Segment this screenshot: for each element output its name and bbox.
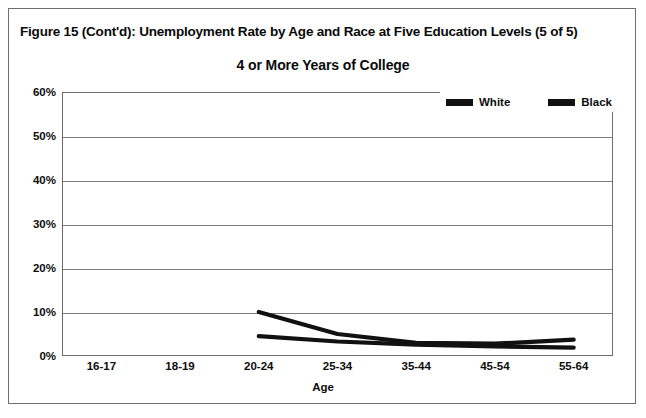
x-axis-tick-label: 16-17 — [61, 360, 141, 372]
x-axis-title: Age — [0, 381, 646, 393]
x-axis-tick-label: 35-44 — [376, 360, 456, 372]
legend-label-black: Black — [581, 96, 612, 108]
x-axis-tick-label: 18-19 — [140, 360, 220, 372]
x-axis-tick-label: 45-54 — [455, 360, 535, 372]
x-axis-tick-label: 55-64 — [534, 360, 614, 372]
legend-entry-white: White — [446, 96, 510, 108]
legend-entry-black: Black — [548, 96, 612, 108]
y-axis-tick-labels: 0%10%20%30%40%50%60% — [8, 92, 56, 356]
x-axis-tick-label: 25-34 — [298, 360, 378, 372]
legend-line-swatch-icon — [548, 99, 575, 106]
figure-container: Figure 15 (Cont'd): Unemployment Rate by… — [0, 0, 646, 418]
chart-legend: White Black — [440, 92, 618, 112]
data-series-layer — [62, 92, 613, 356]
y-axis-tick-label: 30% — [12, 218, 56, 230]
y-axis-tick-label: 50% — [12, 130, 56, 142]
y-axis-tick-label: 10% — [12, 306, 56, 318]
y-axis-tick-label: 20% — [12, 262, 56, 274]
legend-label-white: White — [479, 96, 510, 108]
y-axis-tick-label: 0% — [12, 350, 56, 362]
figure-title: Figure 15 (Cont'd): Unemployment Rate by… — [20, 24, 626, 39]
chart-title: 4 or More Years of College — [0, 57, 646, 73]
legend-line-swatch-icon — [446, 99, 473, 106]
x-axis-tick-label: 20-24 — [219, 360, 299, 372]
y-axis-tick-label: 40% — [12, 174, 56, 186]
y-axis-tick-label: 60% — [12, 86, 56, 98]
